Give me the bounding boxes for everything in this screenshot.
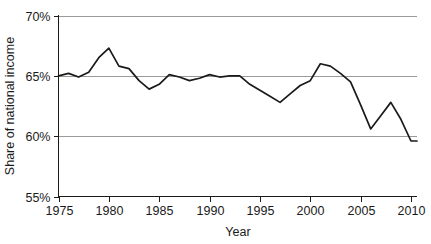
x-tick-label-1990: 1990 — [197, 204, 225, 218]
x-tick-label-1995: 1995 — [247, 204, 275, 218]
x-tick-label-2010: 2010 — [398, 204, 426, 218]
x-axis-title: Year — [225, 225, 250, 239]
y-axis-title: Share of national income — [3, 37, 17, 175]
line-chart: 55%60%65%70% 197519801985199019952000200… — [0, 0, 431, 244]
x-tick-label-1985: 1985 — [146, 204, 174, 218]
x-tick-label-1975: 1975 — [46, 204, 74, 218]
x-tick-label-1980: 1980 — [96, 204, 124, 218]
y-tick-label-65: 65% — [25, 70, 50, 84]
x-tick-label-2000: 2000 — [297, 204, 325, 218]
y-axis-ticks-group: 55%60%65%70% — [25, 10, 58, 205]
y-tick-label-70: 70% — [25, 10, 50, 24]
data-series-line — [59, 48, 418, 141]
x-axis-ticks-group: 19751980198519901995200020052010 — [46, 197, 426, 218]
y-tick-label-60: 60% — [25, 130, 50, 144]
chart-container: 55%60%65%70% 197519801985199019952000200… — [0, 0, 431, 244]
x-tick-label-2005: 2005 — [348, 204, 376, 218]
